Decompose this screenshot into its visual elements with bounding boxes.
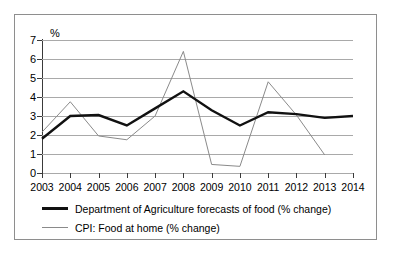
y-axis-unit-label: % [50, 27, 60, 39]
y-tick-label-5: 5 [20, 73, 36, 83]
legend-swatch-cpi-line-icon [42, 223, 68, 233]
legend-swatch-usda-line-icon [42, 204, 68, 214]
y-tick-label-1: 1 [20, 149, 36, 159]
legend-item-usda: Department of Agriculture forecasts of f… [42, 199, 372, 218]
x-tick-label-2014: 2014 [336, 181, 370, 193]
legend-item-cpi: CPI: Food at home (% change) [42, 218, 372, 237]
y-tick-label-7: 7 [20, 35, 36, 45]
chart-figure: % 01234567 20032004200520062007200820092… [14, 14, 377, 240]
plot-area: 01234567 2003200420052006200720082009201… [42, 40, 353, 173]
y-tick-label-3: 3 [20, 111, 36, 121]
chart-legend: Department of Agriculture forecasts of f… [42, 199, 372, 237]
y-tick-label-2: 2 [20, 130, 36, 140]
y-tick-label-6: 6 [20, 54, 36, 64]
series-line-department [42, 91, 353, 139]
series-line-cpi [42, 51, 325, 166]
series-lines [42, 40, 354, 174]
legend-label-cpi: CPI: Food at home (% change) [75, 222, 220, 234]
y-tick-label-0: 0 [20, 168, 36, 178]
y-tick-label-4: 4 [20, 92, 36, 102]
legend-label-usda: Department of Agriculture forecasts of f… [75, 203, 331, 215]
